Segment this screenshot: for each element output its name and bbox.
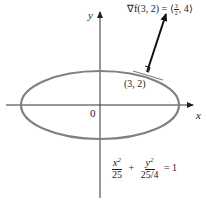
origin-label: 0 [90, 108, 96, 119]
gradient-vector [147, 14, 166, 72]
gradient-frac-den: 2 [175, 10, 178, 16]
gradient-label: ∇f(3, 2) = ⟨32, 4⟩ [127, 3, 193, 17]
gradient-label-prefix: ∇f(3, 2) = ⟨ [127, 3, 174, 14]
point-label: (3, 2) [124, 79, 146, 89]
x-axis-label: x [196, 110, 201, 121]
y-axis-label: y [88, 10, 93, 21]
eq-plus: + [129, 162, 135, 173]
gradient-label-suffix: , 4⟩ [179, 3, 193, 14]
eq-term2-exp: 2 [150, 156, 154, 164]
eq-term1-den: 25 [112, 170, 122, 181]
eq-rhs: = 1 [164, 162, 177, 173]
eq-term2-den: 25/4 [141, 170, 159, 181]
ellipse-equation: x2 25 + y2 25/4 = 1 [112, 158, 177, 180]
eq-term1-exp: 2 [117, 156, 121, 164]
